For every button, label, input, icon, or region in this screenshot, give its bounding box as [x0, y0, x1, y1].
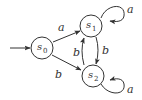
state-label: s	[37, 41, 42, 52]
edge-s1-s2	[96, 37, 98, 64]
self-loop-s1	[101, 6, 124, 21]
edge-s2-s1	[82, 38, 84, 65]
edge-label-s2-s1: b	[73, 46, 80, 59]
edge-label-s0-s2: b	[55, 68, 62, 81]
state-s0: s 0	[31, 37, 53, 59]
self-loop-s2	[101, 79, 124, 93]
state-label: s	[86, 19, 91, 30]
state-s1: s 1	[80, 15, 102, 37]
edge-label-s2-s2: a	[127, 83, 134, 96]
edge-label-s1-s2: b	[102, 44, 109, 57]
automaton-diagram: a b b b a a s 0 s 1 s 2	[0, 0, 142, 100]
edge-label-s0-s1: a	[58, 21, 65, 34]
edge-label-s1-s1: a	[127, 3, 134, 16]
state-label: s	[88, 69, 93, 80]
state-s2: s 2	[82, 65, 104, 87]
state-subscript: 0	[43, 47, 47, 55]
state-subscript: 1	[92, 25, 96, 33]
state-subscript: 2	[94, 75, 98, 83]
